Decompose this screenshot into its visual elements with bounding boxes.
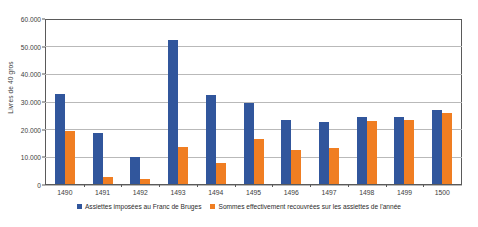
legend-label: Assiettes imposées au Franc de Bruges: [85, 203, 202, 210]
x-axis-tick-label-1495: 1495: [235, 189, 273, 196]
y-axis-tick-label: 10.000: [21, 154, 41, 161]
x-axis-tick-label-1494: 1494: [197, 189, 235, 196]
y-axis-tick-mark: [42, 129, 45, 130]
x-axis-tick-mark: [121, 184, 122, 187]
bar-1500-series-2: [442, 113, 452, 184]
bar-1499-series-1: [394, 117, 404, 184]
plot-area: 010.00020.00030.00040.00050.00060.000: [45, 19, 462, 185]
y-axis-tick-label: 60.000: [21, 16, 41, 23]
y-axis-tick-mark: [42, 157, 45, 158]
bar-group-1497: [310, 19, 348, 184]
legend-swatch-icon: [77, 204, 82, 209]
y-axis-tick-label: 30.000: [21, 99, 41, 106]
x-axis-tick-mark: [235, 184, 236, 187]
bar-1491-series-2: [103, 177, 113, 184]
y-axis-tick-label: 50.000: [21, 43, 41, 50]
legend-swatch-icon: [210, 204, 215, 209]
bar-groups: [46, 19, 461, 184]
y-axis-tick-mark: [42, 19, 45, 20]
bar-1498-series-1: [357, 117, 367, 184]
x-axis-tick-mark: [197, 184, 198, 187]
x-axis-tick-mark: [386, 184, 387, 187]
bar-1494-series-1: [206, 95, 216, 184]
y-axis-tick-mark: [42, 74, 45, 75]
bar-1490-series-2: [65, 131, 75, 184]
bar-group-1493: [159, 19, 197, 184]
bar-1490-series-1: [55, 94, 65, 184]
bar-group-1495: [235, 19, 273, 184]
y-axis-tick-label: 40.000: [21, 71, 41, 78]
x-axis-tick-mark: [84, 184, 85, 187]
bar-1494-series-2: [216, 163, 226, 184]
bar-1491-series-1: [93, 133, 103, 184]
y-axis-tick-label: 20.000: [21, 126, 41, 133]
bar-group-1490: [46, 19, 84, 184]
bar-1500-series-1: [432, 110, 442, 184]
bar-group-1491: [84, 19, 122, 184]
bar-group-1500: [423, 19, 461, 184]
x-axis-tick-labels: 1490149114921493149414951496149714981499…: [46, 189, 461, 196]
bar-1496-series-1: [281, 120, 291, 184]
x-axis-tick-label-1493: 1493: [159, 189, 197, 196]
x-axis-tick-mark: [423, 184, 424, 187]
bar-group-1499: [386, 19, 424, 184]
bar-1499-series-2: [404, 120, 414, 184]
bar-1496-series-2: [291, 150, 301, 184]
bar-1493-series-1: [168, 40, 178, 184]
chart-figure: Livres de 40 gros 010.00020.00030.00040.…: [0, 0, 478, 227]
x-axis-tick-label-1499: 1499: [386, 189, 424, 196]
x-axis-tick-label-1500: 1500: [423, 189, 461, 196]
bar-1497-series-1: [319, 122, 329, 184]
bar-group-1498: [348, 19, 386, 184]
bar-1492-series-1: [130, 157, 140, 185]
bar-1497-series-2: [329, 148, 339, 184]
bar-1493-series-2: [178, 147, 188, 184]
y-axis-tick-mark: [42, 185, 45, 186]
x-axis-tick-label-1491: 1491: [84, 189, 122, 196]
gridline: [45, 185, 462, 186]
x-axis-tick-label-1492: 1492: [121, 189, 159, 196]
bar-1498-series-2: [367, 121, 377, 184]
x-axis-tick-mark: [310, 184, 311, 187]
y-axis-tick-mark: [42, 46, 45, 47]
x-axis-tick-label-1497: 1497: [310, 189, 348, 196]
bar-group-1492: [121, 19, 159, 184]
bar-group-1494: [197, 19, 235, 184]
y-axis-tick-label: 0: [37, 182, 41, 189]
x-axis-tick-label-1496: 1496: [272, 189, 310, 196]
x-axis-tick-label-1490: 1490: [46, 189, 84, 196]
legend-item-2[interactable]: Sommes effectivement recouvrées sur les …: [210, 203, 401, 210]
x-axis-tick-mark: [348, 184, 349, 187]
y-axis-title: Livres de 40 gros: [7, 52, 14, 124]
bar-1495-series-2: [254, 139, 264, 184]
x-axis-tick-mark: [272, 184, 273, 187]
x-axis-tick-label-1498: 1498: [348, 189, 386, 196]
bar-1492-series-2: [140, 179, 150, 184]
y-axis-tick-mark: [42, 102, 45, 103]
bar-1495-series-1: [244, 103, 254, 184]
chart-legend: Assiettes imposées au Franc de BrugesSom…: [0, 203, 478, 210]
x-axis-tick-mark: [159, 184, 160, 187]
bar-group-1496: [272, 19, 310, 184]
legend-item-1[interactable]: Assiettes imposées au Franc de Bruges: [77, 203, 202, 210]
legend-label: Sommes effectivement recouvrées sur les …: [218, 203, 401, 210]
